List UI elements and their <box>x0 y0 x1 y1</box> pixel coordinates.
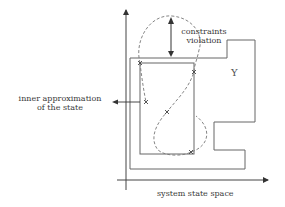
x-axis-label: system state space <box>157 189 234 198</box>
constraints-label-line1: constraints <box>178 27 230 36</box>
inner-approx-pointer-arrow-icon <box>112 100 118 105</box>
inner-approximation-rect <box>140 63 194 154</box>
constraints-label-line2: violation <box>178 36 230 45</box>
inner-approximation-label: inner approximation of the state <box>8 94 112 112</box>
violation-arrow-down-icon <box>168 51 174 57</box>
constraint-region-outline <box>130 40 255 169</box>
inner-label-line1: inner approximation <box>8 94 112 103</box>
cross-marker-icon <box>144 100 148 104</box>
inner-label-line2: of the state <box>8 103 112 112</box>
constraints-violation-label: constraints violation <box>178 27 230 45</box>
violation-arrow-up-icon <box>168 17 174 24</box>
region-symbol-label: Υ <box>231 68 238 77</box>
cross-markers <box>138 61 196 154</box>
cross-marker-icon <box>165 110 169 114</box>
